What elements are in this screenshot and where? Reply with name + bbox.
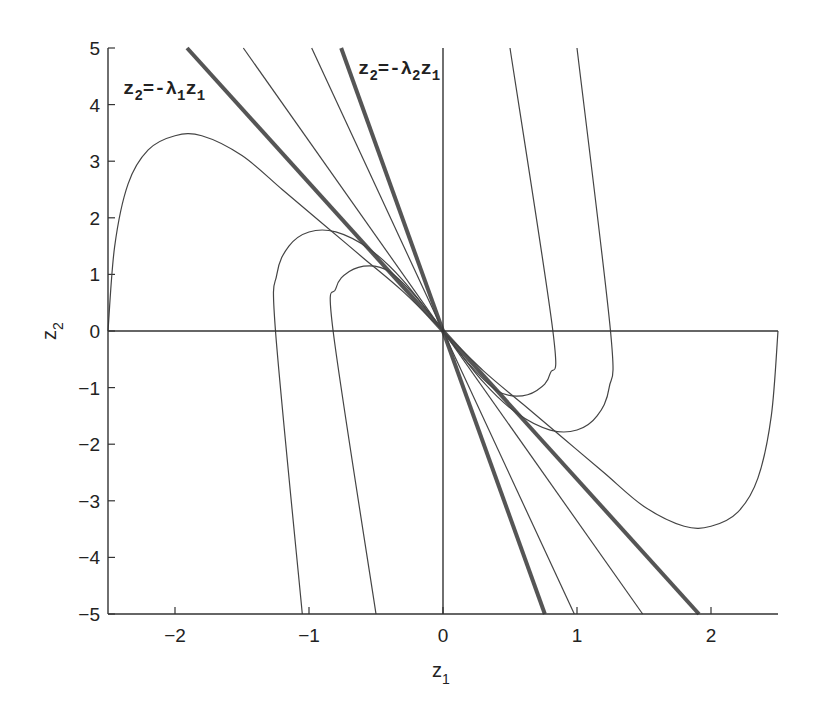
y-tick-label: 4 bbox=[89, 95, 100, 116]
y-tick-label: 0 bbox=[89, 321, 100, 342]
trajectory-curve bbox=[443, 48, 556, 396]
y-tick-label: 2 bbox=[89, 208, 100, 229]
y-tick-label: −4 bbox=[78, 547, 100, 568]
x-tick-label: −2 bbox=[164, 625, 186, 646]
x-tick-label: 2 bbox=[706, 625, 717, 646]
trajectory-curve bbox=[443, 331, 778, 528]
y-tick-label: −5 bbox=[78, 604, 100, 625]
x-tick-label: 0 bbox=[438, 625, 449, 646]
phase-portrait-chart: −2−1012543210−1−2−3−4−5 z2=-λ1z1 z2=-λ2z… bbox=[0, 0, 816, 709]
x-tick-label: −1 bbox=[298, 625, 320, 646]
y-tick-label: −3 bbox=[78, 491, 100, 512]
y-axis-label: z2 bbox=[38, 322, 66, 340]
y-tick-label: 1 bbox=[89, 264, 100, 285]
annotation-lambda2: z2=-λ2z1 bbox=[358, 58, 440, 84]
x-tick-label: 1 bbox=[572, 625, 583, 646]
trajectory-curve bbox=[330, 266, 443, 614]
axis-ticks: −2−1012543210−1−2−3−4−5 bbox=[78, 38, 716, 646]
y-tick-label: 3 bbox=[89, 151, 100, 172]
trajectory-curve bbox=[443, 48, 613, 432]
y-tick-label: 5 bbox=[89, 38, 100, 59]
trajectory-curve bbox=[108, 134, 443, 331]
y-tick-label: −1 bbox=[78, 378, 100, 399]
annotation-lambda1: z2=-λ1z1 bbox=[123, 78, 205, 104]
y-tick-label: −2 bbox=[78, 434, 100, 455]
trajectory-curve bbox=[273, 230, 443, 614]
x-axis-label: z1 bbox=[432, 659, 450, 687]
